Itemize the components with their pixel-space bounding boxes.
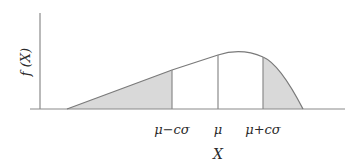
right-tail-shade <box>263 57 303 109</box>
tick-label-mean: μ <box>214 122 222 137</box>
x-axis-label: X <box>212 146 224 162</box>
tick-label-lower: μ−cσ <box>154 122 191 137</box>
tick-label-upper: μ+cσ <box>245 122 282 137</box>
y-axis-label: f (X) <box>18 48 33 77</box>
density-diagram: f (X) μ−cσ μ μ+cσ X <box>0 0 355 168</box>
